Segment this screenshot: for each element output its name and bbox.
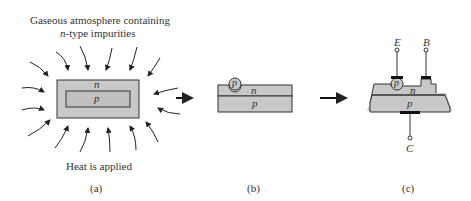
panel-c-p-label: p	[407, 97, 413, 109]
panel-b-n-label: n	[251, 84, 257, 96]
panel-c-dot-label: p	[394, 77, 399, 88]
base-label: B	[423, 36, 430, 48]
panel-a-title-line1: Gaseous atmosphere containing	[30, 14, 170, 26]
n-type-rest: -type impurities	[66, 27, 136, 39]
panel-a-caption: Heat is applied	[66, 160, 132, 172]
panel-c-sublabel: (c)	[402, 182, 414, 194]
panel-b-p-label: p	[252, 97, 258, 109]
panel-a-title-line2: n-type impurities	[60, 27, 135, 39]
emitter-label: E	[394, 36, 401, 48]
collector-label: C	[406, 142, 413, 154]
panel-a-sublabel: (a)	[90, 182, 102, 194]
panel-a-n-label: n	[94, 78, 100, 90]
panel-b-sublabel: (b)	[247, 182, 260, 194]
panel-a-p-label: p	[94, 92, 100, 104]
panel-b-dot-label: p	[232, 77, 237, 88]
panel-c-n-label: n	[410, 84, 416, 96]
